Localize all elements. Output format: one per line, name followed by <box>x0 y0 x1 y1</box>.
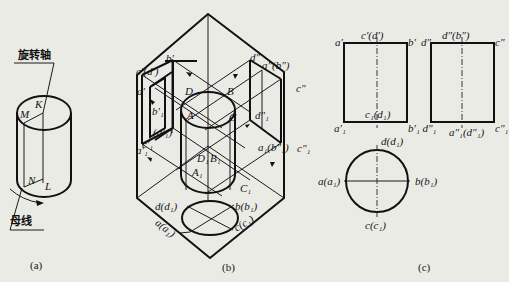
c-label-a-a1: a(a₁) <box>318 176 340 187</box>
c-label-a1-prime: a′₁ <box>334 123 346 134</box>
b-label-d-dprime: d″ <box>250 52 260 63</box>
rotation-axis-label: 旋转轴 <box>18 50 51 61</box>
generatrix-label: 母线 <box>10 216 32 227</box>
b-label-a1-prime: a′₁ <box>136 145 148 156</box>
c-label-b-prime: b′ <box>408 37 416 48</box>
b-label-c1-dprime: c″₁ <box>297 143 310 154</box>
b-label-A: A <box>187 110 194 121</box>
b-label-a-dprime-b-dprime: a″(b″) <box>262 60 290 71</box>
b-label-C1: C₁ <box>240 183 251 194</box>
b-label-D1: D₁ <box>197 153 209 164</box>
b-label-b-b1: b(b₁) <box>235 201 257 212</box>
b-label-D: D <box>185 86 193 97</box>
caption-a: (a) <box>30 260 42 271</box>
b-label-B: B <box>227 86 234 97</box>
b-label-A1: A₁ <box>192 167 203 178</box>
c-label-d-d1: d(d₁) <box>381 136 403 147</box>
c-label-c-c1: c(c₁) <box>365 220 386 231</box>
c-label-d-dprime: d″ <box>421 37 431 48</box>
b-label-d-d1: d(d₁) <box>155 201 177 212</box>
b-label-b-prime: b′ <box>166 53 174 64</box>
c-label-d-dprime-b-dprime: d″(b″) <box>442 30 470 41</box>
point-N: N <box>28 175 35 186</box>
b-label-c-dprime: c″ <box>296 83 305 94</box>
b-label-b1-prime: b′₁ <box>152 106 164 117</box>
c-label-c-dprime: c″ <box>495 37 504 48</box>
line-drawing <box>0 0 509 282</box>
c-label-c1-dprime: c″₁ <box>495 123 508 134</box>
b-label-a-prime: a′ <box>137 86 145 97</box>
c-label-b-b1: b(b₁) <box>415 176 437 187</box>
b-label-B1: B₁ <box>210 153 221 164</box>
c-label-b1-prime-d1-dprime: b′₁ d″₁ <box>408 123 436 134</box>
b-label-c-prime-d-prime: c′(d′) <box>136 66 159 77</box>
point-K: K <box>35 99 42 110</box>
c-label-c1-d1: c₁(d₁) <box>365 109 390 120</box>
point-L: L <box>45 181 51 192</box>
side-view-rect <box>431 43 494 122</box>
c-label-c-prime-d-prime: c′(d′) <box>361 30 384 41</box>
point-M: M <box>20 109 29 120</box>
b-label-a1-b1-dprime: a₁(b″₁) <box>258 142 289 153</box>
caption-b: (b) <box>222 262 235 273</box>
panel-a-cylinder <box>10 63 71 230</box>
c-label-a1-dprime-d1-dprime: a″₁(d″₁) <box>449 127 484 138</box>
b-label-d1-dprime: d″₁ <box>255 110 269 121</box>
b-label-d1-prime: (d′₁) <box>153 127 172 138</box>
b-label-C: C <box>229 112 236 123</box>
c-label-a-prime: a′ <box>335 37 343 48</box>
caption-c: (c) <box>418 262 430 273</box>
cylinder-projection-figure: 旋转轴 母线 K M N L (a) c′(d′) b′ a′ b′₁ (d′₁… <box>0 0 509 282</box>
